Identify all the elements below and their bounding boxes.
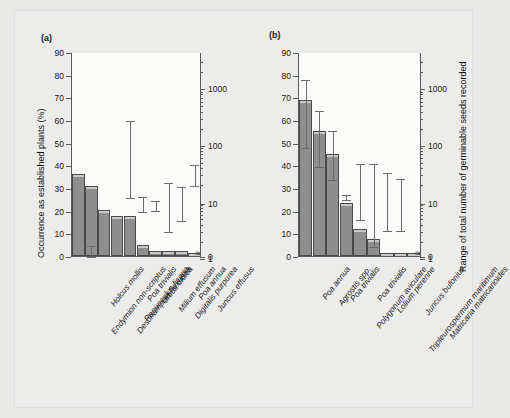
axis-minor-tick bbox=[420, 106, 423, 107]
axis-tick-label: 10 bbox=[39, 230, 64, 239]
panel-a-error-bars bbox=[72, 53, 200, 256]
error-bar-cap-lower bbox=[177, 221, 186, 222]
axis-tick-label: 40 bbox=[266, 162, 291, 171]
axis-minor-tick bbox=[200, 211, 203, 212]
error-bar-cap-upper bbox=[356, 164, 365, 165]
error-bar-cap-lower bbox=[87, 257, 96, 258]
panel-a-plot-area bbox=[71, 53, 200, 257]
axis-minor-tick bbox=[200, 168, 203, 169]
axis-tick-label: 20 bbox=[39, 208, 64, 217]
error-bar-cap-lower bbox=[328, 180, 337, 181]
error-bar bbox=[143, 197, 144, 212]
axis-minor-tick bbox=[420, 163, 423, 164]
error-bar-cap-upper bbox=[328, 131, 337, 132]
axis-tick bbox=[66, 121, 71, 122]
axis-minor-tick bbox=[420, 72, 423, 73]
axis-tick bbox=[293, 257, 298, 258]
axis-minor-tick bbox=[200, 148, 203, 149]
axis-tick bbox=[66, 53, 71, 54]
axis-minor-tick bbox=[420, 94, 423, 95]
axis-minor-tick bbox=[200, 232, 203, 233]
error-bar-cap-lower bbox=[190, 186, 199, 187]
error-bar bbox=[374, 164, 375, 247]
axis-minor-tick bbox=[420, 151, 423, 152]
error-bar bbox=[169, 183, 170, 232]
axis-minor-tick bbox=[420, 215, 423, 216]
axis-minor-tick bbox=[200, 185, 203, 186]
axis-tick-label: 1 bbox=[208, 255, 213, 264]
axis-tick bbox=[66, 166, 71, 167]
axis-tick bbox=[293, 76, 298, 77]
axis-tick-label: 100 bbox=[208, 142, 222, 151]
panel-a-tag: (a) bbox=[41, 33, 52, 43]
axis-tick-label: 80 bbox=[266, 72, 291, 81]
error-bar bbox=[156, 201, 157, 210]
axis-tick-label: 60 bbox=[266, 117, 291, 126]
axis-tick-label: 0 bbox=[266, 253, 291, 262]
axis-tick-label: 80 bbox=[39, 72, 64, 81]
axis-minor-tick bbox=[200, 163, 203, 164]
axis-tick-label: 100 bbox=[428, 142, 442, 151]
axis-tick-label: 50 bbox=[266, 140, 291, 149]
axis-tick-label: 10 bbox=[208, 200, 217, 209]
error-bar-cap-lower bbox=[356, 220, 365, 221]
axis-minor-tick bbox=[200, 158, 203, 159]
axis-tick bbox=[293, 234, 298, 235]
error-bar bbox=[182, 187, 183, 221]
error-bar bbox=[387, 173, 388, 231]
axis-minor-tick bbox=[420, 148, 423, 149]
axis-tick-label: 10 bbox=[428, 200, 437, 209]
axis-minor-tick bbox=[200, 98, 203, 99]
axis-tick-label: 50 bbox=[39, 140, 64, 149]
axis-minor-tick bbox=[200, 106, 203, 107]
axis-tick bbox=[66, 76, 71, 77]
axis-tick bbox=[420, 259, 425, 260]
axis-tick-label: 20 bbox=[266, 208, 291, 217]
axis-minor-tick bbox=[420, 154, 423, 155]
axis-tick bbox=[293, 212, 298, 213]
axis-tick bbox=[200, 259, 205, 260]
panel-b-axis-break-icon: ≈ bbox=[415, 248, 421, 259]
error-bar-cap-upper bbox=[190, 165, 199, 166]
axis-minor-tick bbox=[200, 129, 203, 130]
error-bar-cap-upper bbox=[369, 164, 378, 165]
axis-tick bbox=[66, 144, 71, 145]
error-bar-cap-upper bbox=[396, 179, 405, 180]
error-bar-cap-upper bbox=[301, 80, 310, 81]
axis-minor-tick bbox=[420, 119, 423, 120]
panel-a: (a) Occurrence as established plants (%)… bbox=[14, 10, 246, 408]
error-bar-cap-lower bbox=[151, 211, 160, 212]
error-bar bbox=[333, 131, 334, 180]
axis-tick-label: 90 bbox=[39, 49, 64, 58]
axis-minor-tick bbox=[420, 185, 423, 186]
axis-minor-tick bbox=[420, 219, 423, 220]
error-bar-cap-upper bbox=[138, 197, 147, 198]
category-label: Tripleurospermum maritimum bbox=[427, 265, 500, 354]
axis-tick-label: 30 bbox=[39, 185, 64, 194]
axis-tick bbox=[200, 89, 205, 90]
axis-tick bbox=[200, 146, 205, 147]
axis-tick-label: 70 bbox=[266, 94, 291, 103]
error-bar-cap-lower bbox=[396, 231, 405, 232]
axis-minor-tick bbox=[420, 62, 423, 63]
axis-minor-tick bbox=[420, 242, 423, 243]
axis-minor-tick bbox=[200, 72, 203, 73]
axis-tick bbox=[66, 257, 71, 258]
axis-minor-tick bbox=[200, 154, 203, 155]
axis-tick-label: 1000 bbox=[428, 85, 447, 94]
error-bar bbox=[401, 179, 402, 231]
axis-minor-tick bbox=[200, 219, 203, 220]
axis-tick-label: 10 bbox=[266, 230, 291, 239]
axis-minor-tick bbox=[420, 211, 423, 212]
error-bar-cap-upper bbox=[164, 183, 173, 184]
axis-tick-label: 90 bbox=[266, 49, 291, 58]
panel-b-plot-area bbox=[298, 53, 420, 257]
axis-minor-tick bbox=[420, 205, 423, 206]
axis-minor-tick bbox=[200, 94, 203, 95]
error-bar-cap-upper bbox=[383, 173, 392, 174]
axis-tick bbox=[420, 146, 425, 147]
error-bar-cap-lower bbox=[383, 231, 392, 232]
axis-tick bbox=[293, 144, 298, 145]
error-bar-cap-upper bbox=[151, 201, 160, 202]
error-bar bbox=[91, 246, 92, 257]
